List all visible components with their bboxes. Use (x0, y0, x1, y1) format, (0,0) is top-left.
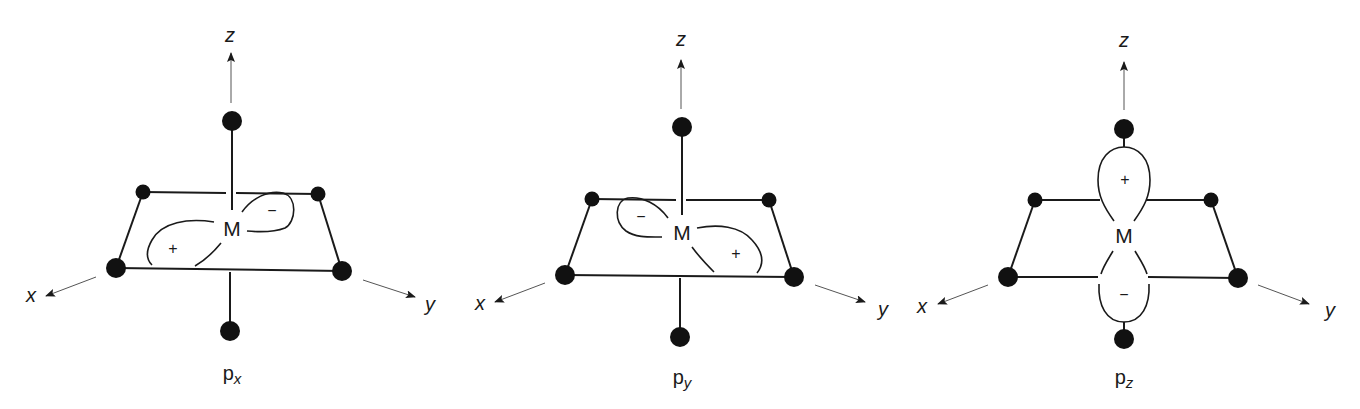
ligand-atom-back-left (1028, 193, 1043, 208)
y-axis-arrow (363, 280, 415, 297)
bond-line (769, 200, 794, 277)
panel-caption: py (673, 366, 693, 391)
metal-label: M (1115, 224, 1133, 247)
ligand-atom-back-right (762, 193, 777, 208)
positive-lobe: + (1098, 147, 1150, 221)
bond-line (1148, 277, 1238, 278)
y-axis-label: y (1323, 299, 1336, 321)
ligand-atom-front-left (106, 258, 126, 278)
ligand-atom-front-right (332, 261, 352, 281)
phase-sign-label: + (168, 240, 177, 257)
y-axis-arrow (815, 285, 865, 302)
axes (495, 60, 865, 302)
panel-pz: +− x y z M pz (916, 29, 1336, 391)
bond-line (592, 199, 676, 200)
bond-line (565, 199, 592, 275)
phase-sign-label: − (636, 208, 645, 225)
ligand-atom-axial-top (222, 111, 242, 131)
y-axis-label: y (423, 293, 436, 315)
x-axis-arrow (495, 283, 545, 302)
ligand-atom-front-left (998, 267, 1018, 287)
bond-line (116, 268, 342, 271)
phase-sign-label: + (731, 245, 740, 262)
metal-label: M (673, 221, 691, 244)
lobe-outline (195, 243, 221, 266)
ligand-atom-axial-top (672, 117, 692, 137)
ligand-atom-axial-bottom (1114, 329, 1134, 349)
bond-line (1211, 200, 1238, 278)
bond-line (116, 192, 143, 268)
lobe-outline (697, 226, 762, 273)
ligand-atom-back-right (311, 187, 326, 202)
ligand-atom-front-right (1228, 268, 1248, 288)
bond-line (565, 275, 794, 277)
z-axis-label: z (1118, 29, 1129, 51)
ligand-atom-axial-bottom (220, 321, 240, 341)
ligand-atom-back-left (136, 185, 151, 200)
metal-label: M (223, 217, 241, 240)
octahedral-p-orbital-figure: +− x y z M px −+ x y z M py +− x y z M p… (0, 0, 1360, 409)
z-axis-label: z (224, 24, 235, 46)
lobe-outline (147, 221, 214, 265)
positive-lobe: + (692, 226, 762, 273)
lobe-outline (1101, 251, 1113, 274)
panel-caption: pz (1115, 366, 1134, 391)
negative-lobe: − (1099, 251, 1149, 322)
orbital-lobes: +− (147, 192, 293, 266)
bond-line (1008, 200, 1035, 277)
axes (46, 53, 415, 297)
panel-px: +− x y z M px (25, 24, 436, 387)
ligand-atom-axial-top (1114, 119, 1134, 139)
negative-lobe: − (242, 192, 294, 231)
lobe-outline (692, 247, 714, 272)
phase-sign-label: − (1119, 286, 1128, 303)
panel-py: −+ x y z M py (474, 28, 889, 391)
x-axis-label: x (474, 292, 486, 314)
ligand-atom-front-left (555, 265, 575, 285)
y-axis-label: y (876, 298, 889, 320)
x-axis-label: x (25, 284, 37, 306)
phase-sign-label: − (267, 202, 276, 219)
ligand-atom-front-right (784, 267, 804, 287)
panel-caption: px (223, 362, 242, 387)
lobe-outline (1135, 251, 1147, 274)
x-axis-label: x (916, 295, 928, 317)
z-axis-label: z (675, 28, 686, 50)
y-axis-arrow (1258, 285, 1309, 304)
bond-line (143, 192, 226, 193)
bond-line (318, 194, 342, 271)
x-axis-arrow (938, 285, 988, 304)
ligand-atom-back-right (1204, 193, 1219, 208)
ligand-atom-back-left (585, 192, 600, 207)
x-axis-arrow (46, 277, 96, 296)
phase-sign-label: + (1120, 171, 1129, 188)
ligand-atom-axial-bottom (670, 327, 690, 347)
positive-lobe: + (147, 221, 221, 266)
negative-lobe: − (617, 198, 668, 237)
